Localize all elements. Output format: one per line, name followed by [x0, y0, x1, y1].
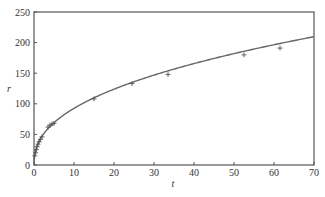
x-tick-label: 40 — [189, 167, 199, 178]
x-tick-label: 10 — [69, 167, 79, 178]
y-tick-label: 200 — [15, 37, 30, 48]
data-points — [32, 46, 282, 159]
y-tick-label: 250 — [15, 7, 30, 18]
axes-frame — [34, 12, 314, 165]
plot-border — [34, 12, 314, 165]
x-tick-label: 60 — [269, 167, 279, 178]
y-tick-label: 100 — [15, 98, 30, 109]
y-tick-label: 150 — [15, 68, 30, 79]
y-tick-label: 0 — [25, 160, 30, 171]
data-point-marker — [166, 72, 171, 77]
x-axis-title: t — [172, 178, 175, 189]
axis-ticks: 010203040506070050100150200250 — [15, 7, 319, 179]
x-tick-label: 20 — [109, 167, 119, 178]
fitted-curve — [34, 37, 314, 165]
y-tick-label: 50 — [20, 129, 30, 140]
chart: 010203040506070050100150200250 t r — [0, 0, 325, 197]
y-axis-title: r — [7, 83, 11, 94]
data-point-marker — [242, 52, 247, 57]
data-point-marker — [278, 46, 283, 51]
data-point-marker — [32, 153, 37, 158]
x-tick-label: 70 — [309, 167, 319, 178]
x-tick-label: 0 — [32, 167, 37, 178]
x-tick-label: 30 — [149, 167, 159, 178]
x-tick-label: 50 — [229, 167, 239, 178]
